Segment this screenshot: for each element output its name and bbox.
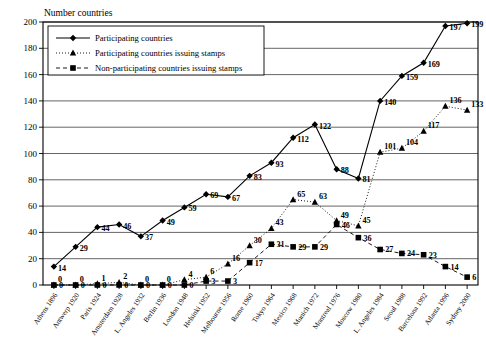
data-point-0-19 [464, 20, 470, 26]
data-label-1-6: 4 [188, 270, 192, 279]
data-label-1-13: 49 [341, 211, 349, 220]
data-point-1-12 [312, 199, 318, 205]
data-label-1-15: 101 [384, 142, 396, 151]
data-label-1-14: 45 [362, 216, 370, 225]
data-label-0-7: 69 [210, 191, 218, 200]
data-point-0-13 [333, 166, 339, 172]
data-label-2-6: 0 [189, 281, 193, 290]
data-point-2-0 [51, 282, 57, 288]
data-label-0-1: 29 [80, 244, 88, 253]
data-label-0-16: 159 [406, 73, 418, 82]
data-label-0-15: 140 [384, 98, 396, 107]
data-label-0-11: 112 [297, 135, 309, 144]
data-point-0-3 [116, 221, 122, 227]
data-point-2-4 [138, 282, 144, 288]
y-axis-title: Number countries [44, 8, 113, 18]
data-point-1-10 [268, 225, 274, 231]
data-label-1-12: 63 [319, 192, 327, 201]
data-label-2-0: 0 [59, 281, 63, 290]
data-label-1-19: 133 [471, 100, 483, 109]
data-point-2-11 [290, 244, 296, 250]
data-label-2-8: 3 [233, 277, 237, 286]
data-label-2-4: 0 [146, 281, 150, 290]
data-label-2-18: 14 [450, 263, 458, 272]
data-label-2-5: 0 [168, 281, 172, 290]
data-point-0-17 [420, 60, 426, 66]
data-label-0-18: 197 [449, 23, 461, 32]
data-point-2-14 [356, 235, 362, 241]
data-label-0-5: 49 [167, 218, 175, 227]
data-label-2-1: 0 [81, 281, 85, 290]
data-label-2-14: 36 [363, 234, 371, 243]
data-point-2-6 [182, 282, 188, 288]
data-label-1-18: 136 [449, 96, 461, 105]
data-point-2-5 [160, 282, 166, 288]
legend-label-1: Participating countries issuing stamps [95, 48, 226, 58]
data-point-2-17 [421, 252, 427, 258]
data-label-0-3: 46 [123, 222, 131, 231]
data-label-0-12: 122 [319, 122, 331, 131]
data-label-2-10: 31 [276, 240, 284, 249]
data-point-2-1 [73, 282, 79, 288]
data-point-1-17 [420, 128, 426, 134]
data-label-1-7: 6 [210, 267, 214, 276]
data-point-2-3 [116, 282, 122, 288]
data-point-2-2 [95, 282, 101, 288]
data-label-0-2: 44 [101, 224, 109, 233]
data-label-2-15: 27 [385, 245, 393, 254]
y-tick-label: 160 [24, 70, 38, 80]
chart-container: Number countries020406080100120140160180… [0, 0, 486, 354]
y-tick-label: 60 [28, 201, 38, 211]
data-point-1-15 [377, 149, 383, 155]
data-label-1-10: 43 [275, 218, 283, 227]
legend-label-0: Participating countries [95, 33, 173, 43]
data-point-2-16 [399, 251, 405, 257]
y-tick-label: 20 [28, 254, 38, 264]
y-tick-label: 80 [28, 175, 38, 185]
data-label-2-16: 24 [407, 249, 415, 258]
data-label-1-11: 65 [297, 190, 305, 199]
legend-marker-2 [70, 65, 76, 71]
data-label-1-17: 117 [428, 121, 440, 130]
data-point-1-18 [442, 103, 448, 109]
data-point-2-18 [443, 264, 449, 270]
y-tick-label: 180 [24, 43, 38, 53]
data-point-2-9 [247, 260, 253, 266]
data-label-1-9: 30 [254, 236, 262, 245]
y-tick-label: 40 [28, 227, 38, 237]
data-label-2-12: 29 [320, 243, 328, 252]
data-point-0-14 [355, 175, 361, 181]
data-point-1-16 [399, 145, 405, 151]
data-point-0-18 [442, 23, 448, 29]
data-point-2-10 [269, 241, 275, 247]
data-label-2-13: 46 [342, 221, 350, 230]
y-tick-label: 140 [24, 96, 38, 106]
data-point-2-19 [464, 274, 470, 280]
data-point-2-13 [334, 222, 340, 228]
y-tick-label: 100 [24, 149, 38, 159]
data-point-2-12 [312, 244, 318, 250]
data-point-0-7 [203, 191, 209, 197]
data-label-0-6: 59 [188, 204, 196, 213]
data-label-2-17: 23 [429, 251, 437, 260]
data-point-1-11 [290, 196, 296, 202]
series-line-2 [54, 225, 467, 285]
data-label-2-11: 29 [298, 243, 306, 252]
data-label-2-3: 0 [124, 281, 128, 290]
data-point-0-6 [181, 204, 187, 210]
data-label-0-8: 67 [232, 194, 240, 203]
y-tick-label: 120 [24, 122, 38, 132]
data-point-2-8 [225, 278, 231, 284]
data-label-0-0: 14 [58, 264, 66, 273]
y-tick-label: 0 [33, 280, 38, 290]
data-point-1-14 [355, 222, 361, 228]
data-label-0-10: 93 [275, 160, 283, 169]
data-label-2-19: 6 [472, 273, 476, 282]
data-label-1-8: 16 [232, 254, 240, 263]
y-tick-label: 200 [24, 17, 38, 27]
data-label-1-16: 104 [406, 138, 418, 147]
olympic-countries-chart: Number countries020406080100120140160180… [0, 0, 486, 354]
data-point-1-8 [225, 261, 231, 267]
data-label-0-14: 81 [362, 175, 370, 184]
data-point-1-6 [181, 276, 187, 282]
